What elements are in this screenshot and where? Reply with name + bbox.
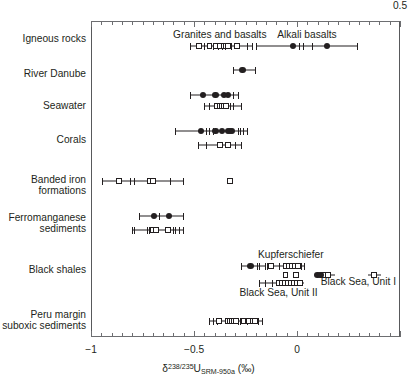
series-10-tick-3 (265, 263, 266, 270)
series-4-tick-2 (230, 103, 231, 110)
series-14-tick-0 (209, 318, 210, 325)
series-3-tick-2 (238, 92, 239, 99)
series-3-tick-1 (233, 92, 234, 99)
series-6-tick-2 (235, 142, 236, 149)
series-14-square-9 (252, 318, 258, 324)
series-7-tick-0 (102, 178, 103, 185)
ylabel-seawater: Seawater (0, 100, 86, 111)
annotation-black-sea-unit-ii: Black Sea, Unit II (239, 287, 317, 298)
series-10-tick-0 (241, 263, 242, 270)
series-11-square-5 (295, 263, 301, 269)
tick-bot--0.85 (122, 333, 123, 337)
series-8-tick-1 (159, 213, 160, 220)
series-7-outlier-square-0 (227, 178, 233, 184)
tick-bot--0.65 (163, 333, 164, 337)
tick-bot--0.8 (132, 333, 133, 337)
tick-top--0.1 (276, 21, 277, 25)
tick-top--0.65 (163, 21, 164, 25)
series-13-square-7 (297, 280, 303, 286)
series-5-tick-5 (240, 128, 241, 135)
tick-bot-0.5 (400, 331, 401, 337)
series-9-tick-1 (134, 227, 135, 234)
series-2-tick-0 (233, 67, 234, 74)
ylabel-banded-iron-formations: Banded iron formations (0, 174, 86, 197)
series-1-tick-4 (357, 43, 358, 50)
series-8-tick-2 (183, 213, 184, 220)
tick-bot--0.55 (184, 333, 185, 337)
series-5-tick-4 (238, 128, 239, 135)
tick-top--0.95 (101, 21, 102, 25)
tick-top-0.35 (369, 21, 370, 25)
series-7-tick-3 (170, 178, 171, 185)
series-3-tick-0 (190, 92, 191, 99)
series-9-square-1 (153, 227, 159, 233)
tick-bot--0.15 (266, 333, 267, 337)
tick-top-0.15 (328, 21, 329, 25)
series-7-tick-2 (134, 178, 135, 185)
tick-bot--0.35 (225, 333, 226, 337)
series-9-tick-4 (173, 227, 174, 234)
tick-top--0.45 (204, 21, 205, 25)
tick-top-0.05 (307, 21, 308, 25)
tick-top-0.3 (359, 21, 360, 25)
series-13-tick-1 (265, 280, 266, 287)
series-8-range-line (139, 216, 182, 217)
series-11-square-0 (268, 263, 274, 269)
series-4-tick-1 (209, 103, 210, 110)
tick-bot--0.75 (143, 333, 144, 337)
tick-top-0.5 (400, 21, 401, 27)
series-7-square-2 (150, 178, 156, 184)
ylabel-river-danube: River Danube (0, 68, 86, 79)
tick-top--0.05 (287, 21, 288, 25)
tick-bot--0.6 (173, 333, 174, 337)
tick-top--0.25 (246, 21, 247, 25)
series-3-circle-1 (212, 92, 218, 98)
tick-bot-0.1 (318, 333, 319, 337)
series-1-range-line (256, 46, 357, 47)
ylabel-igneous-rocks: Igneous rocks (0, 33, 86, 44)
tick-top--0.7 (153, 21, 154, 25)
series-14-tick-6 (258, 318, 259, 325)
series-14-tick-7 (262, 318, 263, 325)
series-0-tick-6 (231, 43, 232, 50)
series-14-square-5 (233, 318, 239, 324)
series-0-tick-1 (204, 43, 205, 50)
series-1-tick-3 (312, 43, 313, 50)
tick-bot--0.95 (101, 333, 102, 337)
series-7-tick-1 (130, 178, 131, 185)
series-4-tick-0 (204, 103, 205, 110)
series-5-range-line (175, 131, 246, 132)
tick-top-0.4 (379, 21, 380, 25)
tick-top--0.6 (173, 21, 174, 25)
ylabel-black-shales: Black shales (0, 264, 86, 275)
series-0-square-7 (234, 43, 240, 49)
series-6-tick-1 (206, 142, 207, 149)
series-9-tick-5 (175, 227, 176, 234)
tick-top-0 (297, 21, 298, 27)
series-10-tick-1 (257, 263, 258, 270)
tick-top--0.85 (122, 21, 123, 25)
series-5-tick-7 (247, 128, 248, 135)
series-10-tick-2 (259, 263, 260, 270)
tick-bot-0.25 (349, 333, 350, 337)
tick-bot-0.2 (338, 333, 339, 337)
tick-top-0.2 (338, 21, 339, 25)
tick-bot--1 (91, 331, 92, 337)
series-13-tick-0 (259, 280, 260, 287)
series-0-tick-7 (247, 43, 248, 50)
tick-bot-0.45 (390, 333, 391, 337)
tick-bot--0.05 (287, 333, 288, 337)
tick-bot--0.5 (194, 331, 195, 337)
series-12-square-1 (293, 272, 299, 278)
series-0-square-0 (196, 43, 202, 49)
series-9-tick-0 (132, 227, 133, 234)
series-4-square-4 (223, 103, 229, 109)
series-1-tick-2 (303, 43, 304, 50)
series-9-tick-7 (183, 227, 184, 234)
series-1-tick-1 (299, 43, 300, 50)
annotation-kupferschiefer: Kupferschiefer (258, 249, 324, 260)
xticklabel--1: −1 (85, 344, 97, 355)
series-0-square-6 (225, 43, 231, 49)
tick-top-0.45 (390, 21, 391, 25)
tick-top-0.25 (349, 21, 350, 25)
